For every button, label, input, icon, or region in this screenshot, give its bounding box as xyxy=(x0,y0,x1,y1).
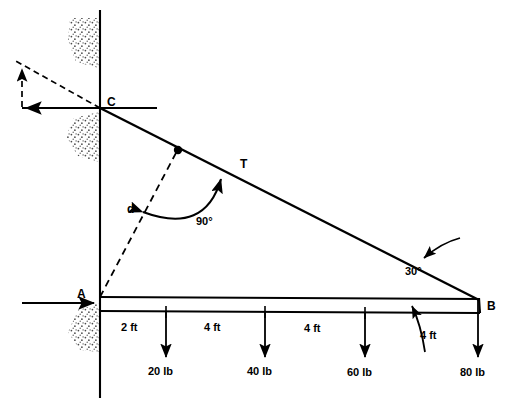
diagram-canvas xyxy=(0,0,506,406)
moment-arm-label: d xyxy=(127,203,134,215)
right-angle-arc xyxy=(143,179,221,219)
dimension-label-2: 4 ft xyxy=(204,322,221,333)
engineering-diagram: A B C T d 90° 30° 2 ft 4 ft 4 ft 4 ft 20… xyxy=(0,0,506,406)
cable-pointer-curve xyxy=(424,238,460,258)
wall-stipple-at-c xyxy=(66,112,99,162)
load-label-60lb: 60 lb xyxy=(347,367,372,378)
load-label-80lb: 80 lb xyxy=(460,367,485,378)
beam-angle-label: 30° xyxy=(405,266,422,277)
point-label-b: B xyxy=(487,300,496,312)
beam-bottom-edge xyxy=(100,311,480,313)
cable-line-cb[interactable] xyxy=(100,108,479,300)
wall-stipple-upper xyxy=(68,18,99,68)
point-label-a: A xyxy=(77,288,86,300)
wall-stipple-at-a xyxy=(68,303,99,352)
right-angle-label: 90° xyxy=(196,216,213,227)
moment-arm-dashed-line xyxy=(100,151,177,297)
force-resultant-dashed-line xyxy=(14,60,100,108)
dimension-label-4: 4 ft xyxy=(420,330,437,341)
beam-top-edge xyxy=(100,297,480,299)
beam-right-end-cap xyxy=(479,298,480,313)
load-label-40lb: 40 lb xyxy=(247,366,272,377)
load-label-20lb: 20 lb xyxy=(148,366,173,377)
dimension-label-3: 4 ft xyxy=(304,323,321,334)
dimension-label-1: 2 ft xyxy=(121,322,138,333)
point-label-c: C xyxy=(107,96,116,108)
tension-label: T xyxy=(240,158,247,170)
